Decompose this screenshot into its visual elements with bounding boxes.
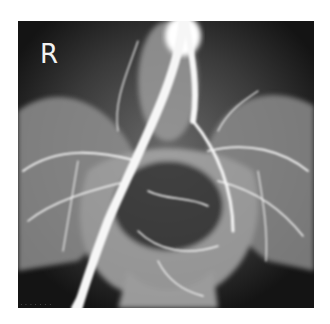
radiograph-drawing xyxy=(18,21,314,308)
film-caption: · · · · · · · xyxy=(20,302,51,307)
side-marker-label: R xyxy=(40,39,58,69)
angiogram-image: R · · · · · · · xyxy=(18,21,314,308)
